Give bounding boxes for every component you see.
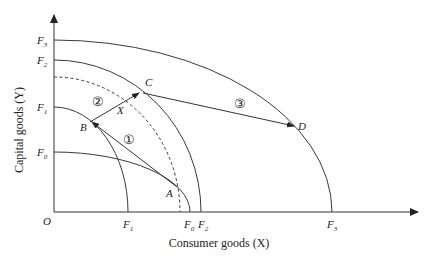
label-f0-x: F0 [183,218,195,233]
label-f2-y: F2 [36,54,48,69]
label-f0-y: F0 [36,146,48,161]
point-x-label: X [116,104,125,116]
point-c-label: C [145,76,153,88]
y-axis-title: Capital goods (Y) [12,87,26,173]
label-f3-y: F3 [36,34,48,49]
label-f1-y: F1 [36,101,47,116]
step-1-label: ① [123,132,135,147]
frontier-f0 [54,152,190,212]
ppf-diagram: F3 F2 F1 F0 O F1 F0 F2 F3 Consumer goods… [0,0,435,263]
label-f3-x: F3 [326,218,338,233]
point-b-label: B [80,121,87,133]
label-f2-x: F2 [197,218,209,233]
step-2-label: ② [92,94,104,109]
label-f1-x: F1 [122,218,133,233]
point-d-label: D [297,120,306,132]
arrow-3-c-to-d [143,93,294,126]
frontier-f1 [54,107,128,212]
point-a-label: A [165,187,173,199]
x-axis-title: Consumer goods (X) [169,236,270,250]
step-3-label: ③ [234,96,246,111]
origin-label: O [43,215,51,227]
